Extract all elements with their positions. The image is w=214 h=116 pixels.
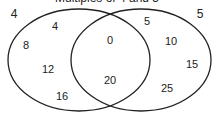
set-4-label: 4 — [11, 8, 18, 20]
intersection-value: 20 — [104, 75, 116, 86]
region-4-value: 16 — [56, 91, 68, 102]
intersection-value: 0 — [107, 35, 113, 46]
region-4-value: 8 — [23, 40, 29, 51]
set-4-ellipse — [8, 9, 150, 111]
region-4-value: 12 — [42, 64, 54, 75]
region-5-value: 15 — [186, 59, 198, 70]
region-5-value: 25 — [161, 83, 173, 94]
venn-diagram — [0, 0, 214, 116]
region-5-value: 10 — [165, 36, 177, 47]
set-5-label: 5 — [197, 8, 204, 20]
region-5-value: 5 — [144, 16, 150, 27]
region-4-value: 4 — [52, 21, 58, 32]
